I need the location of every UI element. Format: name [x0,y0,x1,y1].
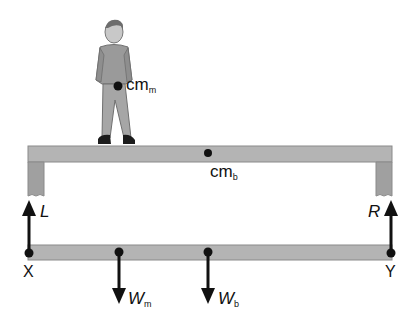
cm-beam-text: cm [210,162,233,181]
weight-label-man: Wm [128,290,152,309]
force-label-left: L [40,203,49,220]
cm-man-text: cm [126,75,149,94]
point-x-dot [25,249,34,258]
cm-beam-dot [204,149,212,157]
cm-man-subscript: m [149,85,157,95]
cm-beam-label: cmb [210,163,238,182]
weight-man-subscript: m [144,299,152,309]
left-support-leg [28,162,44,196]
force-arrow-right [384,200,398,252]
weight-beam-text: W [218,289,234,308]
force-arrow-left [22,200,36,252]
right-support-leg [376,162,392,196]
point-y-dot [387,249,396,258]
cm-man-label: cmm [126,76,156,95]
cm-beam-subscript: b [233,172,238,182]
point-label-x: X [23,264,34,280]
point-label-y: Y [385,264,396,280]
diagram-canvas [0,0,416,327]
weight-man-text: W [128,289,144,308]
cm-man-dot [114,82,123,91]
weight-beam-subscript: b [234,299,239,309]
force-label-right: R [368,203,380,220]
weight-label-beam: Wb [218,290,239,309]
